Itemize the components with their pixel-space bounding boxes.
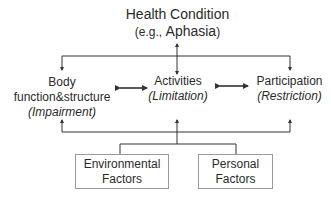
limitation-qualifier: (Limitation) xyxy=(140,89,216,104)
example-value: Aphasia xyxy=(166,23,217,39)
example-suffix: ) xyxy=(216,25,220,39)
environmental-factors-box: Environmental Factors xyxy=(75,154,169,189)
example-prefix: (e.g., xyxy=(135,25,166,39)
health-condition-example: (e.g., Aphasia) xyxy=(110,24,245,40)
restriction-qualifier: (Restriction) xyxy=(248,89,331,104)
body-label: Body xyxy=(2,75,122,90)
environmental-label: Environmental xyxy=(76,157,168,172)
impairment-qualifier: (Impairment) xyxy=(2,105,122,120)
activities-node: Activities (Limitation) xyxy=(140,74,216,104)
body-structure-label: function&structure xyxy=(2,90,122,105)
body-function-node: Body function&structure (Impairment) xyxy=(2,75,122,120)
participation-label: Participation xyxy=(248,74,331,89)
personal-label: Personal xyxy=(199,157,272,172)
health-condition-title: Health Condition xyxy=(110,6,245,22)
personal-factors-label: Factors xyxy=(199,172,272,187)
activities-label: Activities xyxy=(140,74,216,89)
environmental-factors-label: Factors xyxy=(76,172,168,187)
participation-node: Participation (Restriction) xyxy=(248,74,331,104)
personal-factors-box: Personal Factors xyxy=(198,154,273,189)
